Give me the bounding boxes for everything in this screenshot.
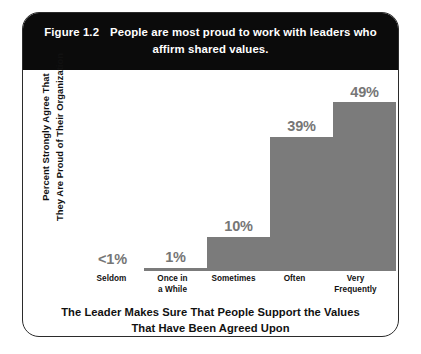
bar-group-sometimes: 10% — [207, 81, 270, 271]
bar-value-label: 49% — [350, 85, 378, 100]
bar-sometimes — [207, 237, 270, 272]
x-axis-tick-labels: Seldom Once in a While Sometimes Often V… — [81, 273, 386, 295]
bar-often — [270, 137, 333, 272]
tick-label-seldom: Seldom — [81, 273, 142, 295]
bar-group-very-frequently: 49% — [333, 81, 396, 271]
bar-group-often: 39% — [270, 81, 333, 271]
bar-group-seldom: <1% — [81, 81, 144, 271]
x-axis-title: The Leader Makes Sure That People Suppor… — [37, 305, 384, 336]
tick-label-very-frequently: Very Frequently — [325, 273, 386, 295]
figure-title-text: Figure 1.2People are most proud to work … — [44, 24, 377, 58]
figure-number: Figure 1.2 — [44, 26, 99, 38]
figure-title-band: Figure 1.2People are most proud to work … — [22, 12, 399, 70]
bar-value-label: 39% — [287, 119, 315, 134]
tick-label-often: Often — [264, 273, 325, 295]
y-axis-label: Percent Strongly Agree That They Are Pro… — [35, 44, 71, 230]
bar-value-label: 1% — [165, 250, 186, 265]
bar-value-label: <1% — [98, 252, 127, 267]
bar-series: <1% 1% 10% 39% 49% — [81, 81, 386, 271]
y-axis-label-line1: Percent Strongly Agree That — [39, 53, 53, 221]
tick-label-sometimes: Sometimes — [203, 273, 264, 295]
bar-seldom — [81, 269, 144, 271]
bar-once-in-a-while — [144, 268, 207, 272]
y-axis-label-line2: They Are Proud of Their Organization — [53, 53, 67, 221]
figure-card: Figure 1.2People are most proud to work … — [22, 12, 399, 337]
bar-group-once-in-a-while: 1% — [144, 81, 207, 271]
chart-body: Percent Strongly Agree That They Are Pro… — [23, 71, 398, 336]
plot-area: <1% 1% 10% 39% 49% — [81, 81, 386, 271]
bar-value-label: 10% — [224, 219, 252, 234]
figure-caption: People are most proud to work with leade… — [110, 26, 377, 55]
x-axis-title-line2: That Have Been Agreed Upon — [37, 321, 384, 337]
tick-label-once-in-a-while: Once in a While — [142, 273, 203, 295]
bar-very-frequently — [333, 102, 396, 271]
x-axis-title-line1: The Leader Makes Sure That People Suppor… — [37, 305, 384, 321]
